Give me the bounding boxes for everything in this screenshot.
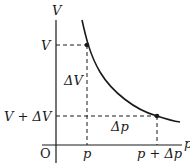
point-p-plus-dp xyxy=(155,114,160,119)
y-tick-lower: V + ΔV xyxy=(4,109,53,124)
pv-diagram: V p O V V + ΔV p p + Δp ΔV Δp xyxy=(0,0,190,163)
x-axis-label: p xyxy=(184,136,190,151)
point-p-V xyxy=(85,43,90,48)
y-tick-upper: V xyxy=(41,38,52,53)
x-tick-left: p xyxy=(83,146,92,161)
delta-p-label: Δp xyxy=(110,119,129,134)
pv-curve xyxy=(82,20,180,122)
y-axis-label: V xyxy=(52,3,63,18)
x-tick-right: p + Δp xyxy=(137,146,183,161)
delta-v-label: ΔV xyxy=(63,73,84,88)
origin-label: O xyxy=(40,146,51,161)
